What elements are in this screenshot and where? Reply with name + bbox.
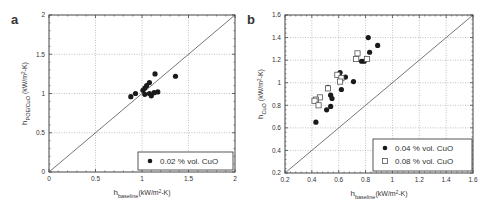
data-point-square bbox=[354, 56, 359, 61]
x-tick-label: 1 bbox=[140, 175, 144, 182]
data-point-circle bbox=[152, 71, 157, 76]
data-point-circle bbox=[375, 43, 380, 48]
data-point-circle bbox=[155, 89, 160, 94]
legend: 0.04 % vol. CuO0.08 % vol. CuO bbox=[373, 139, 472, 171]
x-axis-label: hbaseline(kW/m2-K) bbox=[113, 188, 170, 199]
panel-label: a bbox=[11, 12, 19, 27]
data-point-square bbox=[355, 51, 360, 56]
scatter-plot-b: b0.20.40.60.811.21.41.60.20.40.60.811.21… bbox=[246, 0, 492, 211]
x-tick-label: 0 bbox=[47, 175, 51, 182]
x-tick-label: 1 bbox=[391, 176, 395, 183]
data-point-circle bbox=[328, 104, 333, 109]
x-tick-label: 1.4 bbox=[442, 176, 451, 183]
x-tick-label: 1.5 bbox=[184, 175, 193, 182]
y-tick-label: 0.5 bbox=[36, 129, 45, 136]
data-point-circle bbox=[147, 80, 152, 85]
legend-label: 0.02 % vol. CuO bbox=[160, 157, 218, 166]
y-tick-label: 0.2 bbox=[272, 169, 281, 176]
y-tick-label: 0 bbox=[41, 168, 45, 175]
y-tick-label: 1 bbox=[277, 79, 281, 86]
data-point-circle bbox=[173, 74, 178, 79]
y-tick-label: 1.6 bbox=[272, 11, 281, 18]
data-point-square bbox=[316, 103, 321, 108]
chart-panel-b: b0.20.40.60.811.21.41.60.20.40.60.811.21… bbox=[246, 0, 492, 211]
y-axis-label: hCuO (kW/m2-K) bbox=[256, 69, 267, 119]
y-tick-label: 1.5 bbox=[36, 51, 45, 58]
data-point-circle bbox=[313, 120, 318, 125]
panel-label: b bbox=[247, 12, 255, 27]
x-tick-label: 0.2 bbox=[280, 176, 289, 183]
x-tick-label: 0.8 bbox=[361, 176, 370, 183]
y-tick-label: 0.6 bbox=[272, 124, 281, 131]
y-tick-label: 1.2 bbox=[272, 56, 281, 63]
data-point-circle bbox=[339, 87, 344, 92]
data-point-circle bbox=[366, 35, 371, 40]
data-point-square bbox=[337, 79, 342, 84]
x-tick-label: 0.4 bbox=[307, 176, 316, 183]
legend: 0.02 % vol. CuO bbox=[138, 152, 233, 170]
data-series-0 bbox=[313, 35, 380, 125]
legend-marker-circle bbox=[383, 146, 388, 151]
x-tick-label: 0.5 bbox=[91, 175, 100, 182]
y-tick-label: 1.4 bbox=[272, 34, 281, 41]
data-point-square bbox=[364, 56, 369, 61]
data-point-circle bbox=[367, 50, 372, 55]
x-axis-label: hbaseline(kW/m2-K) bbox=[350, 189, 407, 200]
y-tick-label: 2 bbox=[41, 11, 45, 18]
data-point-circle bbox=[329, 96, 334, 101]
chart-panel-a: a00.511.5200.511.52hbaseline(kW/m2-K)hPO… bbox=[0, 0, 246, 211]
y-axis-label: hPOE/CuO (kW/m2-K) bbox=[20, 62, 31, 125]
legend-label: 0.04 % vol. CuO bbox=[395, 144, 453, 153]
legend-marker-square bbox=[383, 159, 388, 164]
y-tick-label: 0.8 bbox=[272, 102, 281, 109]
x-tick-label: 1.6 bbox=[468, 176, 477, 183]
data-series-0 bbox=[128, 71, 178, 99]
data-point-circle bbox=[142, 92, 147, 97]
y-tick-label: 1 bbox=[41, 90, 45, 97]
data-point-circle bbox=[351, 79, 356, 84]
x-tick-label: 2 bbox=[233, 175, 237, 182]
data-point-square bbox=[325, 86, 330, 91]
scatter-plot-a: a00.511.5200.511.52hbaseline(kW/m2-K)hPO… bbox=[0, 0, 246, 211]
y-tick-label: 0.4 bbox=[272, 147, 281, 154]
x-tick-label: 0.6 bbox=[334, 176, 343, 183]
x-tick-label: 1.2 bbox=[415, 176, 424, 183]
data-point-circle bbox=[324, 107, 329, 112]
legend-marker-circle bbox=[148, 159, 153, 164]
data-point-circle bbox=[128, 94, 133, 99]
legend-label: 0.08 % vol. CuO bbox=[395, 157, 453, 166]
data-point-circle bbox=[133, 91, 138, 96]
